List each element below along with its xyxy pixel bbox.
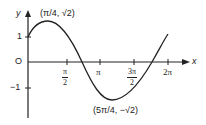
x-tick-label-pi-half: π 2 xyxy=(62,68,68,87)
x-tick-label-pi: π xyxy=(96,68,101,77)
x-tick-label-3pi-half: 3π 2 xyxy=(127,68,137,87)
x-tick-label-2pi: 2π xyxy=(163,68,172,77)
x-axis-arrow-icon xyxy=(182,59,190,65)
x-axis-label: x xyxy=(192,57,197,66)
peak-annotation: (π/4, √2) xyxy=(40,9,75,18)
y-axis-label: y xyxy=(16,9,21,18)
origin-label: O xyxy=(15,57,22,66)
sine-cosine-graph: y x O 1 −1 (π/4, √2) (5π/4, −√2) π 2 π 3… xyxy=(0,0,206,125)
y-tick-label-1: 1 xyxy=(17,32,22,41)
y-tick-label-minus-1: −1 xyxy=(10,83,20,92)
trough-annotation: (5π/4, −√2) xyxy=(93,106,138,115)
curve-line xyxy=(28,21,168,100)
y-axis-arrow-icon xyxy=(25,10,31,17)
